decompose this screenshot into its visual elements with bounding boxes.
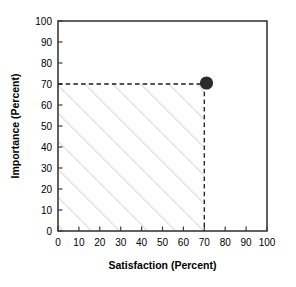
x-tick-labels: 0 10 20 30 40 50 60 70 80 90 100 [55, 237, 276, 248]
x-tick-label: 70 [199, 237, 211, 248]
x-tick-label: 50 [157, 237, 169, 248]
y-tick-label: 30 [41, 163, 53, 174]
x-tick-label: 60 [178, 237, 190, 248]
y-tick-label: 80 [41, 58, 53, 69]
data-point-marker[interactable] [200, 76, 213, 89]
x-tick-label: 30 [115, 237, 127, 248]
y-tick-label: 100 [35, 16, 52, 27]
x-tick-label: 100 [259, 237, 276, 248]
y-tick-label: 20 [41, 184, 53, 195]
x-tick-label: 80 [220, 237, 232, 248]
y-tick-label: 70 [41, 79, 53, 90]
y-axis-title: Importance (Percent) [9, 73, 21, 178]
x-tick-label: 90 [241, 237, 253, 248]
chart-figure: 0 10 20 30 40 50 60 70 80 90 100 100 90 … [0, 0, 296, 287]
y-tick-label: 50 [41, 121, 53, 132]
y-tick-label: 10 [41, 205, 53, 216]
x-tick-label: 10 [73, 237, 85, 248]
y-tick-label: 60 [41, 100, 53, 111]
x-tick-label: 0 [55, 237, 61, 248]
hatched-region [58, 84, 204, 231]
y-tick-label: 0 [46, 226, 52, 237]
x-tick-label: 40 [136, 237, 148, 248]
x-axis-title: Satisfaction (Percent) [109, 259, 217, 271]
chart-svg: 0 10 20 30 40 50 60 70 80 90 100 100 90 … [0, 0, 296, 287]
y-tick-labels: 100 90 80 70 60 50 40 30 20 10 0 [35, 16, 52, 237]
y-tick-label: 90 [41, 37, 53, 48]
y-tick-label: 40 [41, 142, 53, 153]
x-tick-label: 20 [94, 237, 106, 248]
